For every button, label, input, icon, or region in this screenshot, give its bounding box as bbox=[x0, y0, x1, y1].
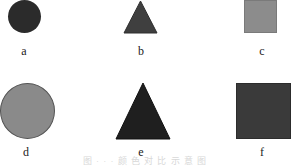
circle-shape-d bbox=[0, 83, 55, 139]
triangle-shape-b bbox=[124, 1, 157, 34]
figure-caption: 图 · · · 颜 色 对 比 示 意 图 bbox=[80, 156, 210, 166]
circle-shape-a bbox=[8, 0, 41, 33]
square-shape-f bbox=[236, 83, 291, 139]
square-shape-c bbox=[244, 0, 277, 33]
shape-label-f: f bbox=[252, 146, 272, 158]
shape-label-d: d bbox=[16, 146, 36, 158]
triangle-shape-e bbox=[116, 83, 170, 140]
shape-label-b: b bbox=[131, 45, 151, 57]
shape-label-c: c bbox=[252, 45, 272, 57]
shape-label-a: a bbox=[14, 45, 34, 57]
